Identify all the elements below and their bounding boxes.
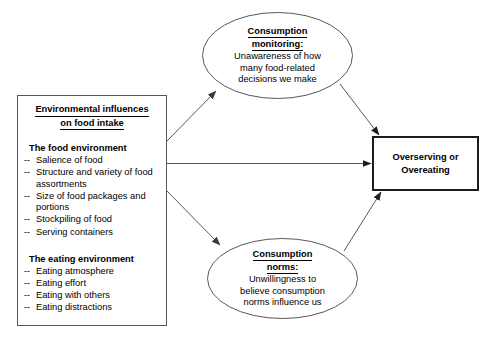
norms-body-line1: Unwillingness to bbox=[249, 274, 316, 284]
consumption-norms-description: Unwillingness to believe consumption nor… bbox=[222, 274, 344, 309]
consumption-monitoring-title: Consumption monitoring: bbox=[218, 25, 338, 51]
monitoring-body-line3: decisions we make bbox=[238, 74, 317, 84]
list-item-label: Structure and variety of food assortment… bbox=[36, 167, 153, 189]
bullet-dash: -- bbox=[24, 227, 30, 239]
overserving-overeating-box: Overserving or Overeating bbox=[372, 136, 479, 191]
norms-body-line3: norms influence us bbox=[243, 297, 321, 307]
list-item-label: Serving containers bbox=[36, 227, 113, 237]
list-item-label: Eating with others bbox=[36, 290, 110, 300]
list-item-label: Salience of food bbox=[36, 155, 103, 165]
eating-environment-heading: The eating environment bbox=[29, 253, 160, 265]
environmental-influences-box: Environmental influences on food intake … bbox=[17, 95, 167, 326]
bullet-dash: -- bbox=[24, 290, 30, 302]
list-item: --Serving containers bbox=[24, 227, 160, 239]
bullet-dash: -- bbox=[24, 155, 30, 167]
consumption-norms-title: Consumption norms: bbox=[222, 248, 344, 274]
bullet-dash: -- bbox=[24, 214, 30, 226]
monitoring-title-line2: monitoring: bbox=[252, 38, 304, 51]
bullet-dash: -- bbox=[24, 266, 30, 278]
env-title-line2: on food intake bbox=[60, 117, 124, 131]
bullet-dash: -- bbox=[24, 278, 30, 290]
list-item: --Eating atmosphere bbox=[24, 266, 160, 278]
food-environment-list: --Salience of food --Structure and varie… bbox=[24, 155, 160, 238]
consumption-norms-node: Consumption norms: Unwillingness to beli… bbox=[207, 238, 358, 319]
monitoring-body-line1: Unawareness of how bbox=[234, 51, 321, 61]
list-item-label: Stockpiling of food bbox=[36, 214, 112, 224]
norms-title-line1: Consumption bbox=[253, 248, 313, 261]
list-item: --Structure and variety of food assortme… bbox=[24, 167, 160, 190]
list-item: --Eating distractions bbox=[24, 302, 160, 314]
list-item: --Eating effort bbox=[24, 278, 160, 290]
list-item: --Size of food packages and portions bbox=[24, 191, 160, 214]
outcome-line1: Overserving or bbox=[392, 152, 458, 162]
list-item-label: Eating distractions bbox=[36, 302, 112, 312]
list-item: --Stockpiling of food bbox=[24, 214, 160, 226]
monitoring-body-line2: many food-related bbox=[240, 63, 315, 73]
bullet-dash: -- bbox=[24, 302, 30, 314]
outcome-line2: Overeating bbox=[401, 165, 450, 175]
list-item-label: Eating effort bbox=[36, 278, 86, 288]
list-item-label: Size of food packages and portions bbox=[36, 191, 146, 213]
norms-title-line2: norms: bbox=[267, 261, 299, 274]
food-environment-heading: The food environment bbox=[29, 142, 160, 154]
bullet-dash: -- bbox=[24, 167, 30, 179]
environmental-influences-title: Environmental influences on food intake bbox=[24, 103, 160, 130]
outcome-label: Overserving or Overeating bbox=[392, 151, 458, 176]
list-item: --Salience of food bbox=[24, 155, 160, 167]
bullet-dash: -- bbox=[24, 191, 30, 203]
edge-env-to-norms bbox=[167, 191, 220, 245]
eating-environment-list: --Eating atmosphere --Eating effort --Ea… bbox=[24, 266, 160, 314]
consumption-monitoring-description: Unawareness of how many food-related dec… bbox=[218, 51, 338, 86]
list-item: --Eating with others bbox=[24, 290, 160, 302]
diagram-canvas: Environmental influences on food intake … bbox=[0, 0, 494, 341]
consumption-monitoring-node: Consumption monitoring: Unawareness of h… bbox=[202, 12, 353, 99]
env-title-line1: Environmental influences bbox=[35, 103, 148, 117]
norms-body-line2: believe consumption bbox=[240, 286, 325, 296]
list-item-label: Eating atmosphere bbox=[36, 266, 114, 276]
monitoring-title-line1: Consumption bbox=[248, 25, 308, 38]
